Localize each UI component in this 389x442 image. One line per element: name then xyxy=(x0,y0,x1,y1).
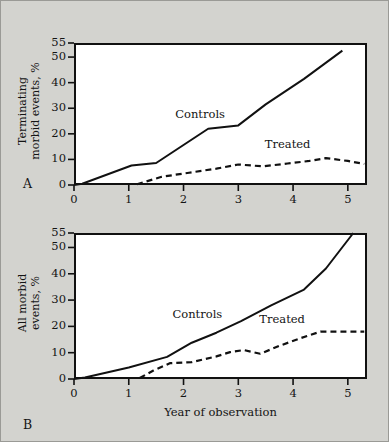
y-axis-title-b: All morbidevents, % xyxy=(17,227,42,379)
series-label-controls-b: Controls xyxy=(172,307,222,321)
series-label-treated-a: Treated xyxy=(265,137,311,151)
x-tick-label: 3 xyxy=(228,388,248,400)
x-tick-label: 4 xyxy=(283,388,303,400)
y-axis-title-a: Terminatingmorbid events, % xyxy=(17,37,42,185)
x-tick-label: 5 xyxy=(338,194,358,206)
y-axis-title-line1: Terminating xyxy=(17,37,30,185)
panel-letter-a: A xyxy=(23,176,32,191)
y-axis-title-line1: All morbid xyxy=(17,227,30,379)
y-axis-title-line2: events, % xyxy=(30,227,43,379)
panel-letter-b: B xyxy=(23,417,32,432)
y-axis-title-line2: morbid events, % xyxy=(30,37,43,185)
x-tick-label: 5 xyxy=(338,388,358,400)
x-tick-label: 1 xyxy=(119,194,139,206)
x-tick-label: 2 xyxy=(174,388,194,400)
x-axis-title: Year of observation xyxy=(74,405,367,419)
x-tick-label: 0 xyxy=(64,388,84,400)
series-label-controls-a: Controls xyxy=(175,107,225,121)
x-tick-label: 3 xyxy=(228,194,248,206)
x-tick-label: 1 xyxy=(119,388,139,400)
series-label-treated-b: Treated xyxy=(259,312,305,326)
x-tick-label: 4 xyxy=(283,194,303,206)
x-tick-label: 0 xyxy=(64,194,84,206)
x-tick-label: 2 xyxy=(174,194,194,206)
figure-container: 0102030405055 012345 Terminatingmorbid e… xyxy=(0,0,389,442)
